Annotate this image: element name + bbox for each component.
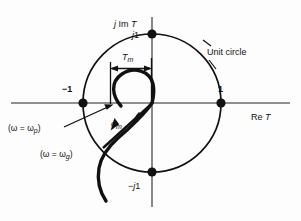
tick-label-minus-j1-value: 1 bbox=[135, 181, 140, 191]
point-marker-minus-1 bbox=[78, 98, 87, 107]
phi-m-label-sub: m bbox=[116, 123, 122, 130]
omega-p-eq: = bbox=[17, 123, 27, 133]
tick-label-minus-1: −1 bbox=[62, 85, 72, 94]
unit-circle-leader-line-upper bbox=[203, 40, 211, 46]
point-marker-j1 bbox=[147, 29, 156, 38]
tick-label-j1-value: 1 bbox=[134, 30, 139, 40]
real-axis-label-var: T bbox=[265, 112, 271, 122]
omega-p-leader-group bbox=[64, 104, 114, 127]
nyquist-plot-figure: j Im T j1 −j1 −1 1 Re T Unit circle Tm ϕ… bbox=[0, 0, 301, 221]
omega-g-close: ) bbox=[70, 149, 73, 159]
plot-canvas bbox=[0, 0, 301, 221]
real-axis-label-text: Re bbox=[251, 112, 265, 122]
omega-p-close: ) bbox=[38, 123, 41, 133]
phi-m-label: ϕm bbox=[111, 120, 122, 130]
omega-g-label: (ω = ωg) bbox=[40, 150, 73, 160]
real-axis-label: Re T bbox=[251, 113, 271, 122]
unit-circle-label: Unit circle bbox=[207, 48, 247, 57]
omega-p-leader-arrowhead bbox=[104, 104, 113, 110]
omega-p-label: (ω = ωp) bbox=[8, 124, 41, 134]
imag-axis-label-var: T bbox=[131, 19, 137, 29]
tick-label-minus-j1: −j1 bbox=[128, 182, 140, 191]
omega-g-eq: = bbox=[49, 149, 59, 159]
tm-label: Tm bbox=[122, 53, 133, 63]
point-marker-plus-1 bbox=[216, 98, 225, 107]
tm-arrowhead-left bbox=[110, 66, 118, 72]
axis-group bbox=[11, 17, 290, 207]
nyquist-locus-curve bbox=[98, 70, 153, 201]
imag-axis-label-text: Im bbox=[116, 19, 131, 29]
tick-label-plus-1: 1 bbox=[218, 85, 223, 94]
imag-axis-label: j Im T bbox=[114, 20, 137, 29]
omega-g-omega2: ω bbox=[59, 149, 66, 159]
tm-label-sub: m bbox=[128, 56, 134, 63]
omega-p-omega2: ω bbox=[27, 123, 34, 133]
tick-label-j1: j1 bbox=[132, 31, 139, 40]
tm-arrowhead-right bbox=[144, 66, 152, 72]
point-marker-minus-j1 bbox=[147, 167, 156, 176]
